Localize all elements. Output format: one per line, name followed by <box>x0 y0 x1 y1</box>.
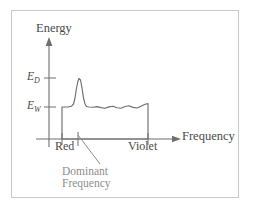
y-axis <box>46 37 53 147</box>
y-tick-label-ed: ED <box>27 70 40 86</box>
y-axis-label: Energy <box>36 22 72 35</box>
x-tick-label-red: Red <box>55 140 74 153</box>
spectrum-figure: Energy Frequency Red Violet ED EW Domina… <box>0 0 255 213</box>
y-tick-label-ed-subscript: D <box>34 76 40 85</box>
y-tick-label-ew: EW <box>27 99 41 115</box>
y-tick-label-ew-base: E <box>27 99 34 111</box>
spectrum-curve <box>62 79 148 140</box>
dominant-frequency-annotation: Dominant Frequency <box>62 165 111 189</box>
y-tick-label-ed-base: E <box>27 70 34 82</box>
x-axis-label: Frequency <box>182 130 235 143</box>
y-tick-marks <box>44 78 56 107</box>
y-tick-label-ew-subscript: W <box>34 105 41 114</box>
annotation-line-1: Dominant <box>62 165 111 177</box>
annotation-line-2: Frequency <box>62 177 111 189</box>
x-tick-label-violet: Violet <box>128 140 157 153</box>
